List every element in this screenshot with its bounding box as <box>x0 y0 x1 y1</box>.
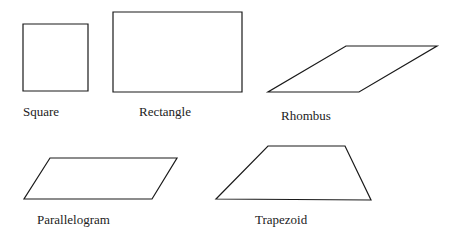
parallelogram-shape <box>24 158 177 199</box>
square-label: Square <box>23 104 59 120</box>
trapezoid-shape <box>216 146 371 200</box>
shapes-canvas <box>0 0 459 243</box>
trapezoid-label: Trapezoid <box>255 212 307 228</box>
parallelogram-label: Parallelogram <box>37 212 110 228</box>
rectangle-label: Rectangle <box>139 104 191 120</box>
square-shape <box>23 24 88 91</box>
rectangle-shape <box>113 12 242 92</box>
rhombus-label: Rhombus <box>281 108 331 124</box>
rhombus-shape <box>268 46 437 92</box>
